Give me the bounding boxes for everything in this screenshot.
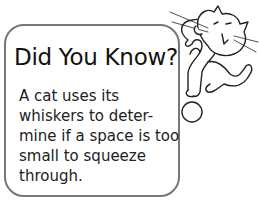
- fact-line: A cat uses its: [19, 86, 179, 106]
- fact-text: A cat uses its whiskers to deter- mine i…: [19, 86, 179, 186]
- fact-line: whiskers to deter-: [19, 106, 179, 126]
- fact-line: mine if a space is too: [19, 126, 179, 146]
- fact-line: through.: [19, 166, 179, 186]
- box-title: Did You Know?: [14, 44, 178, 70]
- cat-question-mark-icon: [168, 2, 259, 142]
- fact-line: small to squeeze: [19, 146, 179, 166]
